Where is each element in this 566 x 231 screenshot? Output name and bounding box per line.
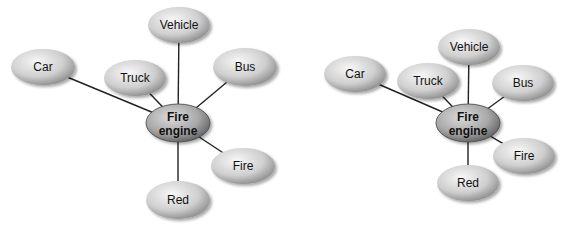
node-label: Fire (514, 149, 535, 163)
node-label: Car (345, 67, 364, 81)
node-fire: Fire (493, 138, 555, 174)
node-bus: Bus (492, 65, 554, 101)
node-bus: Bus (213, 48, 277, 86)
node-vehicle: Vehicle (438, 29, 500, 65)
node-label: Bus (513, 76, 534, 90)
node-label: Truck (413, 74, 444, 88)
node-label: Bus (235, 60, 256, 74)
center-label-line2: engine (159, 124, 198, 138)
node-vehicle: Vehicle (148, 7, 210, 43)
diagram-canvas: CarVehicleTruckBusFireRedFireengineCarVe… (0, 0, 566, 231)
node-label: Red (167, 193, 189, 207)
node-label: Truck (120, 71, 151, 85)
node-label: Vehicle (160, 18, 199, 32)
node-red: Red (437, 165, 499, 201)
center-node-fire-engine: Fireengine (146, 104, 210, 142)
mind-map-compact: CarVehicleTruckBusFireRedFireengine (324, 29, 555, 201)
node-truck: Truck (397, 63, 459, 99)
node-car: Car (11, 49, 75, 85)
center-label-line2: engine (449, 124, 488, 138)
center-node-fire-engine: Fireengine (436, 104, 500, 142)
node-label: Red (457, 176, 479, 190)
node-car: Car (324, 56, 386, 92)
mind-map-spread: CarVehicleTruckBusFireRedFireengine (11, 7, 277, 219)
node-truck: Truck (104, 60, 166, 96)
node-label: Fire (233, 159, 254, 173)
center-label-line1: Fire (167, 110, 189, 124)
node-red: Red (146, 181, 210, 219)
node-label: Car (33, 60, 52, 74)
node-fire: Fire (211, 148, 275, 184)
node-label: Vehicle (450, 40, 489, 54)
center-label-line1: Fire (457, 110, 479, 124)
